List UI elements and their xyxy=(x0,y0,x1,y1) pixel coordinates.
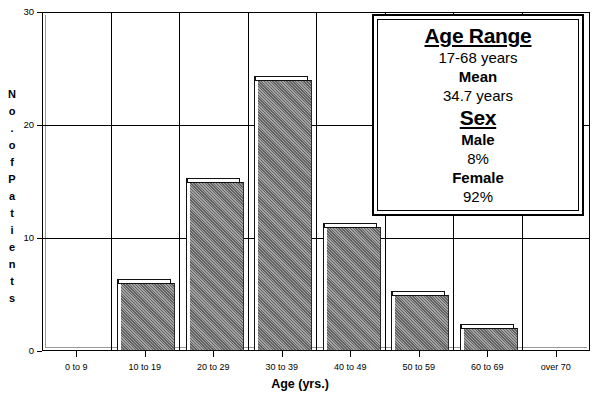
female-label: Female xyxy=(378,168,578,187)
bar xyxy=(394,295,449,352)
bar xyxy=(257,80,312,351)
bar-left-face xyxy=(186,178,190,352)
x-tick-mark xyxy=(350,351,351,357)
y-axis-title-letter: a xyxy=(2,188,22,205)
y-axis-title-letter: P xyxy=(2,171,22,188)
bar-left-face xyxy=(254,76,258,351)
y-tick-label: 20 xyxy=(8,120,34,130)
sex-heading: Sex xyxy=(378,105,578,130)
female-value: 92% xyxy=(378,187,578,206)
male-label: Male xyxy=(378,130,578,149)
bar xyxy=(189,182,244,352)
y-tick-label: 10 xyxy=(8,233,34,243)
bar-top-cap xyxy=(392,291,445,296)
bar-left-face xyxy=(391,291,395,352)
bar-top-cap xyxy=(187,178,240,183)
bar-left-face xyxy=(117,279,121,351)
mean-value: 34.7 years xyxy=(378,86,578,105)
x-tick-label: 20 to 29 xyxy=(179,362,248,373)
y-tick-mark xyxy=(37,351,42,352)
x-tick-mark xyxy=(487,351,488,357)
y-axis-title-letter: t xyxy=(2,273,22,290)
y-tick-label: 30 xyxy=(8,7,34,17)
x-tick-mark xyxy=(76,351,77,357)
x-tick-mark xyxy=(213,351,214,357)
age-range-value: 17-68 years xyxy=(378,48,578,67)
bar xyxy=(326,227,381,351)
bar-top-cap xyxy=(255,76,308,81)
x-tick-label: 10 to 19 xyxy=(111,362,180,373)
x-axis-title: Age (yrs.) xyxy=(0,377,600,391)
x-tick-label: 40 to 49 xyxy=(316,362,385,373)
y-axis-title-letter: N xyxy=(2,86,22,103)
y-tick-label: 0 xyxy=(8,346,34,356)
y-axis-title-letter: n xyxy=(2,256,22,273)
male-value: 8% xyxy=(378,149,578,168)
bar xyxy=(120,283,175,351)
x-tick-mark xyxy=(145,351,146,357)
x-tick-label: 0 to 9 xyxy=(42,362,111,373)
mean-label: Mean xyxy=(378,67,578,86)
info-box-inner: Age Range 17-68 years Mean 34.7 years Se… xyxy=(377,19,579,211)
bar xyxy=(463,328,518,351)
y-axis-title-letter: o xyxy=(2,137,22,154)
info-box: Age Range 17-68 years Mean 34.7 years Se… xyxy=(372,14,584,216)
age-range-heading: Age Range xyxy=(378,23,578,48)
y-axis-title-letter: o xyxy=(2,103,22,120)
bar-top-cap xyxy=(118,279,171,284)
x-tick-label: 50 to 59 xyxy=(385,362,454,373)
age-distribution-chart: N o . o f P a t i e n t s 0102030 0 to 9… xyxy=(0,0,600,396)
x-tick-mark xyxy=(556,351,557,357)
x-tick-label: 60 to 69 xyxy=(453,362,522,373)
x-tick-mark xyxy=(282,351,283,357)
y-axis-title-letter: t xyxy=(2,205,22,222)
x-tick-mark xyxy=(419,351,420,357)
bar-top-cap xyxy=(461,324,514,329)
bar-left-face xyxy=(323,223,327,351)
y-axis-title-letter: s xyxy=(2,290,22,307)
bar-top-cap xyxy=(324,223,377,228)
y-axis-title-letter: f xyxy=(2,154,22,171)
x-tick-label: 30 to 39 xyxy=(248,362,317,373)
x-tick-label: over 70 xyxy=(522,362,591,373)
